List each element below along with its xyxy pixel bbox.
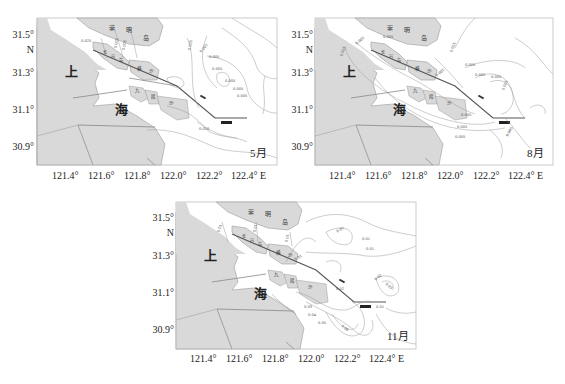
label-shanghai-bottom: 海 bbox=[393, 102, 406, 117]
contour-label: 0.02 bbox=[336, 287, 344, 291]
label-changxing: 兴 bbox=[250, 237, 254, 243]
x-tick: 121.8° bbox=[262, 353, 289, 364]
map-canvas: 0.005 0.005 0.005 0.005 0.005 0.005 0.00… bbox=[279, 0, 565, 190]
label-shanghai-top: 上 bbox=[204, 248, 217, 263]
label-changxing: 岛 bbox=[119, 57, 123, 63]
x-tick: 121.8° bbox=[124, 170, 151, 181]
label-shanghai-top: 上 bbox=[343, 64, 356, 79]
map-panel-aug: 31.5° N 31.3° 31.1° 30.9° bbox=[279, 0, 565, 190]
label-chongming: 崇 bbox=[109, 24, 115, 31]
contour-label: 0.005 bbox=[465, 63, 475, 67]
contour-label: 0.005 bbox=[457, 125, 467, 129]
map-panel-nov: 31.5° N 31.3° 31.1° 30.9° bbox=[140, 190, 430, 384]
contour-label: 0.005 bbox=[475, 73, 485, 77]
x-tick: 121.4° bbox=[190, 353, 217, 364]
x-tick: 122.4° E bbox=[369, 353, 404, 364]
x-tick: 121.6° bbox=[365, 170, 392, 181]
contour-label: 0.005 bbox=[225, 79, 235, 83]
label-changxing: 兴 bbox=[111, 53, 115, 59]
x-tick: 122.2° bbox=[334, 353, 361, 364]
label-changxing: 岛 bbox=[397, 57, 401, 63]
map-canvas: 0.025 0.005 0.005 0.005 0.005 0.005 0.00… bbox=[0, 0, 290, 190]
contour-label: 0.005 bbox=[233, 87, 243, 91]
contour-label: 0.005 bbox=[383, 35, 393, 39]
x-tick: 122.0° bbox=[437, 170, 464, 181]
x-tick: 122.4° E bbox=[508, 170, 543, 181]
x-tick: 122.2° bbox=[196, 170, 223, 181]
x-tick: 122.0° bbox=[160, 170, 187, 181]
label-changxing: 长 bbox=[381, 49, 385, 55]
contour-label: 0.005 bbox=[491, 75, 501, 79]
label-shanghai-bottom: 海 bbox=[254, 286, 267, 301]
contour-label: 0.04 bbox=[308, 313, 317, 317]
label-changxing: 长 bbox=[103, 49, 107, 55]
map-panel-may: 31.5° N 31.3° 31.1° 30.9° bbox=[0, 0, 290, 190]
label-chongming: 明 bbox=[126, 26, 132, 34]
x-tick: 121.8° bbox=[401, 170, 428, 181]
contour-label: 0.005 bbox=[461, 113, 471, 117]
month-label-nov: 11月 bbox=[387, 327, 409, 343]
x-tick: 121.4° bbox=[52, 170, 79, 181]
label-chongming: 岛 bbox=[143, 34, 149, 42]
label-chongming: 岛 bbox=[421, 34, 427, 42]
x-tick: 122.0° bbox=[298, 353, 325, 364]
contour-label: 0.01 bbox=[366, 247, 374, 251]
label-changxing: 岛 bbox=[258, 241, 262, 247]
label-chongming: 崇 bbox=[248, 208, 254, 215]
contour-label: 0.005 bbox=[212, 67, 222, 71]
label-changxing: 长 bbox=[242, 233, 246, 239]
x-tick: 121.6° bbox=[88, 170, 115, 181]
label-shanghai-top: 上 bbox=[65, 64, 78, 79]
x-tick: 122.2° bbox=[473, 170, 500, 181]
contour-label: 0.005 bbox=[237, 94, 247, 98]
contour-label: 0.005 bbox=[209, 55, 219, 59]
label-chongming: 明 bbox=[404, 26, 410, 34]
label-shanghai-bottom: 海 bbox=[115, 102, 128, 117]
label-changxing: 兴 bbox=[389, 53, 393, 59]
x-tick: 122.4° E bbox=[231, 170, 266, 181]
label-chongming: 崇 bbox=[387, 24, 393, 31]
contour-label: 0.025 bbox=[81, 39, 91, 43]
x-tick: 121.6° bbox=[226, 353, 253, 364]
contour-label: 0.005 bbox=[455, 135, 465, 139]
month-label-may: 5月 bbox=[250, 144, 267, 160]
contour-label: 0.01 bbox=[362, 237, 370, 241]
contour-label: 0.05 bbox=[318, 321, 326, 325]
x-tick: 121.4° bbox=[329, 170, 356, 181]
label-chongming: 明 bbox=[265, 210, 271, 218]
contour-label: 0.01 bbox=[376, 305, 384, 309]
contour-label: 0.03 bbox=[304, 305, 312, 309]
label-chongming: 岛 bbox=[282, 218, 288, 226]
month-label-aug: 8月 bbox=[527, 144, 544, 160]
contour-label: 0.010 bbox=[199, 127, 210, 131]
